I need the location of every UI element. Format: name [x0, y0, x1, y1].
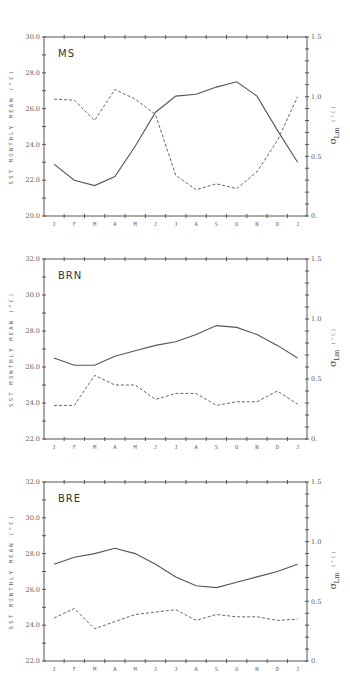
month-label: J	[52, 666, 55, 672]
month-label: J	[52, 444, 55, 450]
left-axis-title: SST MONTHLY MEAN (°C)	[8, 69, 14, 185]
month-label: J	[52, 221, 55, 227]
month-label: A	[194, 221, 198, 227]
month-label: M	[93, 221, 97, 227]
sst-figure: 20.022.024.026.028.030.00.0.51.01.5JFMAM…	[0, 0, 350, 697]
left-axis-tick-label: 32.0	[26, 478, 40, 486]
right-axis-tick-label: 1.0	[311, 93, 321, 101]
month-label: J	[296, 221, 299, 227]
right-axis-tick-label: 1.0	[311, 315, 321, 323]
sigma-unit: (°C)	[330, 327, 336, 345]
left-axis-tick-label: 26.0	[26, 105, 40, 113]
station-label: BRN	[58, 270, 82, 281]
left-axis-tick-label: 26.0	[26, 586, 40, 594]
sigma-unit: (°C)	[330, 549, 336, 567]
sigma-subscript: Lm	[333, 572, 341, 584]
left-axis-title: SST MONTHLY MEAN (°C)	[8, 291, 14, 407]
sst-mean-line	[54, 326, 298, 366]
left-axis-tick-label: 24.0	[26, 621, 40, 629]
month-label: O	[235, 221, 238, 227]
left-axis-tick-label: 32.0	[26, 255, 40, 263]
month-label: D	[276, 221, 279, 227]
left-axis-tick-label: 22.0	[26, 657, 40, 665]
station-label: MS	[58, 48, 75, 59]
right-axis-tick-label: 0.5	[311, 375, 321, 383]
right-axis-tick-label: 0.5	[311, 153, 321, 161]
month-label: J	[296, 666, 299, 672]
month-label: F	[73, 444, 76, 450]
left-axis-tick-label: 30.0	[26, 33, 40, 41]
month-label: D	[276, 666, 279, 672]
left-axis-tick-label: 20.0	[26, 212, 40, 220]
left-axis-tick-label: 30.0	[26, 514, 40, 522]
plot-frame	[44, 37, 307, 216]
right-axis-title: σLm(°C)	[327, 327, 341, 367]
right-axis-title: σLm(°C)	[327, 104, 341, 144]
left-axis-tick-label: 22.0	[26, 176, 40, 184]
month-label: J	[154, 444, 157, 450]
month-label: S	[215, 221, 218, 227]
sst-mean-line	[54, 548, 298, 587]
month-label: J	[174, 444, 177, 450]
month-label: O	[235, 666, 238, 672]
chart-panel-brn: 22.024.026.028.030.032.00.0.51.01.5JFMAM…	[8, 255, 341, 450]
left-axis-tick-label: 28.0	[26, 327, 40, 335]
chart-panel-bre: 22.024.026.028.030.032.00.0.51.01.5JFMAM…	[8, 478, 341, 672]
left-axis-tick-label: 24.0	[26, 399, 40, 407]
month-label: A	[113, 221, 117, 227]
month-label: J	[296, 444, 299, 450]
month-label: M	[134, 444, 138, 450]
month-label: D	[276, 444, 279, 450]
month-label: M	[93, 666, 97, 672]
month-label: J	[174, 666, 177, 672]
month-label: N	[255, 666, 258, 672]
right-axis-title: σLm(°C)	[327, 549, 341, 589]
month-label: S	[215, 666, 218, 672]
sigma-unit: (°C)	[330, 104, 336, 122]
right-axis-tick-label: 1.5	[311, 255, 321, 263]
month-label: N	[255, 444, 258, 450]
sigma-dashed-line	[54, 90, 298, 190]
right-axis-tick-label: 1.0	[311, 538, 321, 546]
sigma-dashed-line	[54, 609, 298, 629]
month-label: J	[174, 221, 177, 227]
right-axis-tick-label: 0.	[311, 435, 317, 443]
plot-frame	[44, 482, 307, 661]
left-axis-tick-label: 30.0	[26, 291, 40, 299]
month-label: O	[235, 444, 238, 450]
right-axis-tick-label: 0.5	[311, 598, 321, 606]
left-axis-tick-label: 22.0	[26, 435, 40, 443]
left-axis-tick-label: 28.0	[26, 550, 40, 558]
month-label: A	[194, 444, 198, 450]
month-label: N	[255, 221, 258, 227]
right-axis-tick-label: 1.5	[311, 478, 321, 486]
month-label: J	[154, 221, 157, 227]
station-label: BRE	[58, 493, 81, 504]
month-label: S	[215, 444, 218, 450]
right-axis-tick-label: 1.5	[311, 33, 321, 41]
left-axis-tick-label: 28.0	[26, 69, 40, 77]
month-label: A	[113, 666, 117, 672]
month-label: F	[73, 221, 76, 227]
month-label: J	[154, 666, 157, 672]
right-axis-tick-label: 0.	[311, 657, 317, 665]
right-axis-tick-label: 0.	[311, 212, 317, 220]
month-label: F	[73, 666, 76, 672]
sigma-subscript: Lm	[333, 349, 341, 361]
sigma-subscript: Lm	[333, 127, 341, 139]
month-label: A	[194, 666, 198, 672]
plot-frame	[44, 259, 307, 439]
month-label: M	[134, 666, 138, 672]
sst-mean-line	[54, 82, 298, 186]
month-label: M	[93, 444, 97, 450]
left-axis-tick-label: 26.0	[26, 363, 40, 371]
left-axis-title: SST MONTHLY MEAN (°C)	[8, 514, 14, 630]
chart-panel-ms: 20.022.024.026.028.030.00.0.51.01.5JFMAM…	[8, 33, 341, 227]
month-label: M	[134, 221, 138, 227]
left-axis-tick-label: 24.0	[26, 141, 40, 149]
month-label: A	[113, 444, 117, 450]
sigma-dashed-line	[54, 375, 298, 405]
